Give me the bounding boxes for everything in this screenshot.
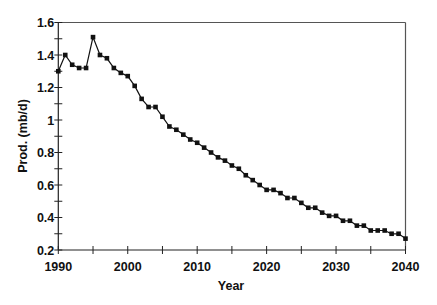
y-tick-label: 1.6 — [37, 16, 54, 30]
y-tick-label: 0.4 — [37, 211, 54, 225]
data-point-marker — [105, 56, 110, 61]
data-point-marker — [63, 53, 68, 58]
data-point-marker — [223, 158, 228, 163]
data-point-marker — [389, 231, 394, 236]
data-point-marker — [292, 196, 297, 201]
data-point-marker — [368, 228, 373, 233]
data-point-marker — [375, 228, 380, 233]
data-point-marker — [160, 114, 165, 119]
data-point-marker — [181, 132, 186, 137]
data-point-marker — [243, 173, 248, 178]
data-point-marker — [98, 53, 103, 58]
data-point-marker — [132, 84, 137, 89]
data-point-marker — [278, 191, 283, 196]
y-tick-label: 1.4 — [37, 49, 54, 63]
data-point-marker — [237, 166, 242, 171]
data-point-marker — [153, 105, 158, 110]
data-point-marker — [341, 218, 346, 223]
x-tick-label: 2010 — [183, 260, 211, 274]
data-point-marker — [84, 66, 89, 71]
data-point-marker — [403, 236, 408, 241]
series-line — [58, 37, 405, 239]
data-point-marker — [125, 74, 130, 79]
data-point-marker — [285, 196, 290, 201]
y-tick-label: 0.6 — [37, 179, 54, 193]
data-point-marker — [112, 66, 117, 71]
data-point-marker — [167, 124, 172, 129]
x-tick-label: 2000 — [114, 260, 142, 274]
data-point-marker — [91, 35, 96, 40]
data-point-marker — [77, 66, 82, 71]
data-point-marker — [202, 145, 207, 150]
data-point-marker — [320, 210, 325, 215]
y-tick-label: 0.2 — [37, 244, 54, 258]
data-point-marker — [146, 105, 151, 110]
x-tick-label: 2030 — [322, 260, 350, 274]
data-point-marker — [264, 188, 269, 193]
data-point-marker — [70, 62, 75, 67]
data-point-marker — [382, 228, 387, 233]
data-point-marker — [271, 188, 276, 193]
x-tick-label: 2020 — [253, 260, 281, 274]
y-tick-label: 0.8 — [37, 146, 54, 160]
data-point-marker — [56, 69, 61, 74]
y-tick-label: 1 — [47, 114, 54, 128]
data-series — [56, 35, 408, 241]
data-point-marker — [188, 137, 193, 142]
data-point-marker — [334, 214, 339, 219]
y-axis-title: Prod. (mb/d) — [16, 99, 30, 173]
line-chart: 199020002010202020302040 0.20.40.60.811.… — [0, 0, 437, 305]
y-tick-label: 1.2 — [37, 81, 54, 95]
data-point-marker — [174, 127, 179, 132]
data-point-marker — [216, 155, 221, 160]
data-point-marker — [362, 223, 367, 228]
data-point-marker — [257, 183, 262, 188]
data-point-marker — [209, 150, 214, 155]
x-axis-title: Year — [218, 279, 245, 293]
data-point-marker — [348, 218, 353, 223]
x-tick-label: 1990 — [44, 260, 72, 274]
data-point-marker — [250, 178, 255, 183]
data-point-marker — [355, 223, 360, 228]
data-point-marker — [396, 231, 401, 236]
x-tick-label: 2040 — [392, 260, 420, 274]
data-point-marker — [327, 214, 332, 219]
data-point-marker — [118, 71, 123, 76]
plot-frame — [58, 23, 405, 251]
data-point-marker — [306, 205, 311, 210]
data-point-marker — [299, 201, 304, 206]
data-point-marker — [230, 163, 235, 168]
data-point-marker — [313, 205, 318, 210]
data-point-marker — [195, 140, 200, 145]
data-point-marker — [139, 97, 144, 102]
